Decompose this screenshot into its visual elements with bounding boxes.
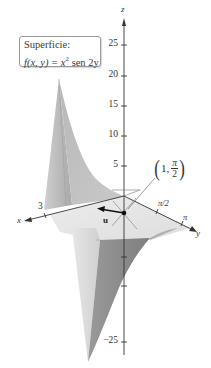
y-tick-pi: π bbox=[183, 212, 187, 222]
z-tick-10: 10 bbox=[98, 129, 118, 139]
y-tick-pi-half: π/2 bbox=[158, 198, 169, 208]
surface-label-title: Superficie: bbox=[24, 38, 100, 52]
y-axis-label: y bbox=[196, 228, 200, 238]
z-tick-15: 15 bbox=[98, 99, 118, 109]
z-axis-label: z bbox=[121, 4, 125, 14]
point-label: ( 1, π 2 ) bbox=[153, 156, 186, 180]
z-tick-20: 20 bbox=[98, 69, 118, 79]
surface-label-function: f(x, y) = x2 sen 2y bbox=[24, 52, 100, 70]
x-axis-label: x bbox=[17, 215, 21, 225]
vector-u-label: u bbox=[103, 215, 108, 225]
x-tick-3: 3 bbox=[38, 201, 43, 211]
fraction-pi-over-2: π 2 bbox=[171, 158, 178, 179]
z-tick-neg25: −25 bbox=[98, 335, 118, 345]
z-tick-5: 5 bbox=[98, 159, 118, 169]
point-marker bbox=[122, 211, 127, 216]
z-axis bbox=[121, 18, 127, 355]
surface-label-box: Superficie: f(x, y) = x2 sen 2y bbox=[19, 36, 101, 67]
z-tick-25: 25 bbox=[98, 38, 118, 48]
